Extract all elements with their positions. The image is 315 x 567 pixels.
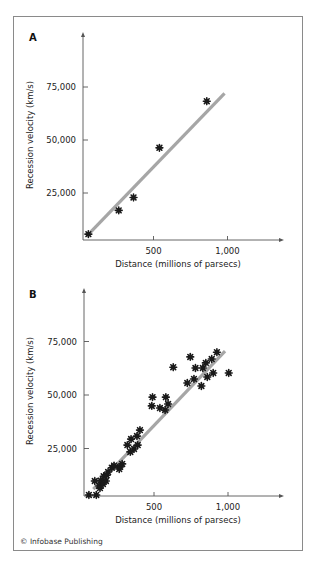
y-axis-arrow-icon (81, 32, 85, 37)
data-point-star-icon (191, 376, 198, 383)
copyright-credit: © Infobase Publishing (20, 537, 103, 546)
x-tick-label: 1,000 (215, 246, 239, 256)
data-point-star-icon (184, 380, 191, 387)
data-point-star-icon (156, 144, 163, 151)
panel-a-chart: 5001,00025,00050,00075,000Distance (mill… (25, 32, 284, 269)
data-point-star-icon (208, 356, 215, 363)
x-axis-label: Distance (millions of parsecs) (115, 259, 241, 269)
y-tick-label: 75,000 (46, 82, 76, 92)
y-tick-label: 25,000 (47, 444, 77, 454)
x-axis-arrow-icon (279, 494, 284, 498)
y-tick-label: 50,000 (46, 135, 76, 145)
data-point-star-icon (137, 427, 144, 434)
data-point-star-icon (214, 349, 221, 356)
data-point-star-icon (204, 374, 211, 381)
data-point-star-icon (203, 98, 210, 105)
data-point-star-icon (85, 492, 92, 499)
data-point-star-icon (93, 492, 100, 499)
y-axis-label: Recession velocity (km/s) (25, 81, 35, 189)
x-tick-label: 500 (146, 502, 162, 512)
trend-line (91, 93, 225, 232)
data-point-star-icon (170, 364, 177, 371)
data-point-star-icon (130, 194, 137, 201)
data-point-star-icon (225, 370, 232, 377)
data-point-star-icon (162, 394, 169, 401)
data-point-star-icon (103, 478, 110, 485)
data-point-star-icon (148, 403, 155, 410)
x-axis-label: Distance (millions of parsecs) (115, 515, 241, 525)
x-tick-label: 500 (145, 246, 161, 256)
data-point-star-icon (124, 442, 131, 449)
y-tick-label: 75,000 (47, 337, 77, 347)
cut-off-caption-fragment (14, 561, 294, 567)
y-axis-label: Recession velocity (km/s) (25, 337, 35, 445)
data-point-star-icon (210, 370, 217, 377)
data-point-star-icon (165, 401, 172, 408)
x-tick-label: 1,000 (216, 502, 240, 512)
data-point-star-icon (134, 442, 141, 449)
data-point-star-icon (111, 462, 118, 469)
data-point-star-icon (198, 383, 205, 390)
data-point-star-icon (149, 394, 156, 401)
data-point-star-icon (119, 461, 126, 468)
y-tick-label: 25,000 (46, 188, 76, 198)
data-point-star-icon (192, 365, 199, 372)
data-point-star-icon (202, 360, 209, 367)
panel-label: A (29, 32, 37, 43)
data-point-star-icon (85, 231, 92, 238)
x-axis-arrow-icon (279, 238, 284, 242)
y-tick-label: 50,000 (47, 390, 77, 400)
data-point-star-icon (115, 207, 122, 214)
hubble-diagram-figure: 5001,00025,00050,00075,000Distance (mill… (0, 0, 315, 567)
data-point-star-icon (187, 354, 194, 361)
y-axis-arrow-icon (82, 288, 86, 293)
panel-b-chart: 5001,00025,00050,00075,000Distance (mill… (25, 288, 284, 525)
panel-label: B (29, 289, 37, 300)
